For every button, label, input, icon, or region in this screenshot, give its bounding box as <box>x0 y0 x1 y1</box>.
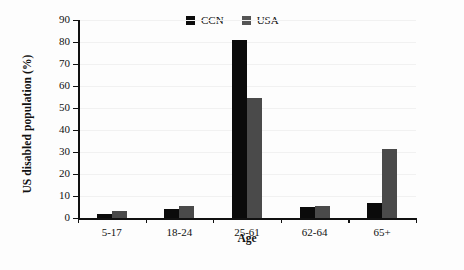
x-axis-title: Age <box>78 232 416 244</box>
y-axis-tick-label: 10 <box>46 195 70 196</box>
bar-usa-5-17 <box>112 211 127 218</box>
y-axis-tick-label: 40 <box>46 129 70 130</box>
y-axis-tick <box>73 42 78 43</box>
plot-area: 0102030405060708090 5-1718-2425-6162-646… <box>78 20 416 218</box>
bar-usa-62-64 <box>315 206 330 218</box>
gridline <box>78 64 416 65</box>
y-axis-tick <box>73 196 78 197</box>
bar-usa-65+ <box>382 149 397 218</box>
x-axis-tick <box>348 218 349 223</box>
y-axis-tick <box>73 152 78 153</box>
y-axis-tick-label: 0 <box>46 217 70 218</box>
x-axis-tick <box>78 218 79 223</box>
x-axis-line <box>78 218 416 220</box>
x-axis-tick <box>213 218 214 223</box>
y-axis-tick-label: 90 <box>46 19 70 20</box>
gridline <box>78 86 416 87</box>
y-axis-tick <box>73 130 78 131</box>
y-axis-tick-label: 70 <box>46 63 70 64</box>
bar-usa-25-61 <box>247 98 262 218</box>
y-axis-tick <box>73 64 78 65</box>
bar-ccn-25-61 <box>232 40 247 218</box>
y-axis-tick-label: 30 <box>46 151 70 152</box>
bar-ccn-62-64 <box>300 207 315 218</box>
x-axis-tick <box>281 218 282 223</box>
chart-figure: US disabled population (%) CCN USA 01020… <box>0 0 464 270</box>
bar-usa-18-24 <box>179 206 194 218</box>
y-axis-title: US disabled population (%) <box>21 19 33 229</box>
y-axis-tick-label: 20 <box>46 173 70 174</box>
bar-ccn-5-17 <box>97 214 112 218</box>
y-axis-tick <box>73 20 78 21</box>
y-axis-tick <box>73 86 78 87</box>
y-axis-tick <box>73 108 78 109</box>
gridline <box>78 20 416 21</box>
gridline <box>78 42 416 43</box>
bar-ccn-65+ <box>367 203 382 218</box>
y-axis-line <box>78 20 80 218</box>
y-axis-tick-label: 50 <box>46 107 70 108</box>
y-axis-tick-label: 80 <box>46 41 70 42</box>
bar-ccn-18-24 <box>164 209 179 218</box>
x-axis-tick <box>416 218 417 223</box>
x-axis-tick <box>146 218 147 223</box>
y-axis-tick-label: 60 <box>46 85 70 86</box>
y-axis-tick <box>73 174 78 175</box>
